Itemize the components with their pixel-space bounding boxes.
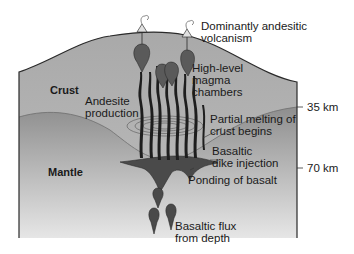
mantle-label: Mantle bbox=[48, 166, 83, 178]
chambers-label-line2: magma bbox=[192, 74, 230, 86]
melting-label-line1: Partial melting of bbox=[210, 113, 296, 125]
crustal-magmatism-diagram: Crust Mantle Andesite production Dominan… bbox=[0, 0, 354, 254]
crust-label: Crust bbox=[50, 84, 79, 96]
volcanism-label-line1: Dominantly andesitic bbox=[201, 20, 307, 32]
cross-section-graphic bbox=[0, 0, 354, 254]
ponding-label: Ponding of basalt bbox=[188, 174, 277, 186]
depth-marker-35km: 35 km bbox=[307, 101, 338, 113]
andesite-production-line2: production bbox=[85, 107, 139, 119]
flux-label-line1: Basaltic flux bbox=[175, 220, 236, 232]
eruption-plumes bbox=[141, 15, 193, 29]
depth-marker-70km: 70 km bbox=[307, 162, 338, 174]
chambers-label-line1: High-level bbox=[192, 62, 243, 74]
chambers-label-line3: chambers bbox=[192, 86, 243, 98]
dike-label-line1: Basaltic bbox=[212, 145, 252, 157]
dike-label-line2: dike injection bbox=[212, 157, 278, 169]
flux-label-line2: from depth bbox=[175, 232, 230, 244]
melting-label-line2: crust begins bbox=[210, 125, 272, 137]
andesite-production-line1: Andesite bbox=[85, 95, 130, 107]
volcanism-label-line2: volcanism bbox=[201, 32, 252, 44]
